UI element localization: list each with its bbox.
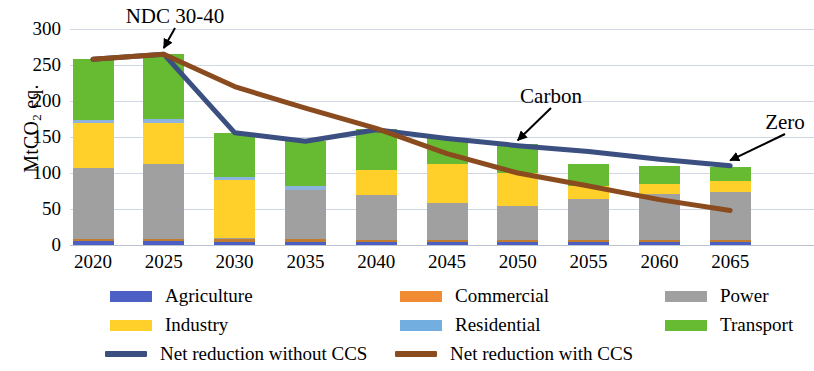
legend-item[interactable]: Residential (400, 314, 540, 336)
bar-segment-agriculture (143, 241, 184, 245)
bar-segment-transport (710, 167, 751, 181)
bar-segment-transport (568, 164, 609, 186)
legend-label: Power (720, 285, 769, 307)
bar-segment-power (285, 190, 326, 240)
x-axis-tick-label: 2025 (145, 251, 183, 273)
legend-label: Commercial (455, 285, 549, 307)
legend-label: Transport (720, 314, 793, 336)
legend-item[interactable]: Industry (110, 314, 228, 336)
stacked-bar[interactable] (285, 141, 326, 245)
bar-segment-industry (497, 173, 538, 206)
y-axis-tick-label: 300 (33, 18, 62, 40)
bar-segment-transport (214, 133, 255, 177)
y-axis-tick-label: 0 (52, 234, 62, 256)
annotation-label: NDC 30-40 (126, 4, 225, 29)
legend-row: IndustryResidentialTransport (0, 310, 814, 337)
bar-segment-transport (427, 138, 468, 164)
bar-segment-industry (568, 186, 609, 199)
legend-swatch (400, 291, 442, 302)
bar-segment-industry (143, 123, 184, 165)
x-axis-tick-label: 2030 (216, 251, 254, 273)
y-axis-tick-label: 150 (33, 126, 62, 148)
x-axis-tick-label: 2055 (570, 251, 608, 273)
chart-figure: MtCO2 eq. 050100150200250300 20202025203… (0, 0, 814, 371)
bar-segment-industry (427, 164, 468, 202)
bar-segment-industry (710, 181, 751, 193)
bar-segment-power (356, 195, 397, 240)
legend-label: Residential (455, 314, 540, 336)
legend-row: Net reduction without CCSNet reduction w… (0, 339, 814, 366)
bar-segment-agriculture (710, 242, 751, 245)
bar-segment-transport (143, 54, 184, 119)
bar-segment-agriculture (427, 242, 468, 245)
bar-segment-industry (356, 170, 397, 195)
bar-segment-industry (639, 184, 680, 194)
stacked-bar[interactable] (214, 133, 255, 245)
plot-area: 050100150200250300 (70, 0, 814, 248)
legend-item[interactable]: Agriculture (110, 285, 253, 307)
annotation-label: Carbon (520, 84, 582, 109)
legend-swatch (110, 291, 152, 302)
x-axis-tick-label: 2040 (357, 251, 395, 273)
bar-segment-industry (73, 123, 114, 168)
stacked-bar[interactable] (568, 164, 609, 245)
legend-swatch (105, 351, 147, 357)
x-axis-tick-label: 2035 (286, 251, 324, 273)
bar-segment-power (568, 199, 609, 240)
stacked-bar[interactable] (497, 144, 538, 245)
y-axis-tick-label: 50 (42, 198, 61, 220)
gridline (70, 245, 814, 246)
bar-segment-power (639, 194, 680, 240)
x-axis: 2020202520302035204020452050205520602065 (70, 249, 814, 275)
bar-segment-agriculture (214, 242, 255, 245)
legend-label: Net reduction with CCS (450, 343, 633, 365)
bar-segment-transport (73, 59, 114, 119)
bar-segment-transport (285, 141, 326, 186)
bar-segment-power (497, 206, 538, 240)
x-axis-tick-label: 2060 (640, 251, 678, 273)
bar-segment-agriculture (568, 242, 609, 245)
bar-segment-transport (497, 144, 538, 173)
bar-segment-agriculture (639, 242, 680, 245)
stacked-bar[interactable] (143, 54, 184, 245)
bar-segment-transport (639, 166, 680, 184)
bar-segment-industry (214, 180, 255, 238)
stacked-bar[interactable] (356, 129, 397, 245)
bar-segment-power (73, 168, 114, 239)
legend-label: Agriculture (165, 285, 253, 307)
stacked-bar[interactable] (73, 59, 114, 245)
legend-item[interactable]: Power (665, 285, 769, 307)
y-axis-tick-label: 200 (33, 90, 62, 112)
bar-segment-power (710, 192, 751, 240)
stacked-bar[interactable] (710, 167, 751, 245)
legend-swatch (665, 291, 707, 302)
annotation-label: Zero (765, 110, 805, 135)
legend-label: Net reduction without CCS (160, 343, 367, 365)
stacked-bar[interactable] (639, 166, 680, 245)
bar-segment-power (143, 164, 184, 238)
stacked-bar[interactable] (427, 138, 468, 245)
bar-segment-power (427, 203, 468, 240)
legend-swatch (110, 320, 152, 331)
legend-item[interactable]: Commercial (400, 285, 549, 307)
legend-row: AgricultureCommercialPower (0, 281, 814, 308)
x-axis-tick-label: 2020 (74, 251, 112, 273)
x-axis-tick-label: 2045 (428, 251, 466, 273)
y-axis-title-subscript: 2 (29, 114, 44, 121)
bar-segment-agriculture (497, 242, 538, 245)
bar-segment-agriculture (73, 241, 114, 245)
legend-swatch (395, 351, 437, 357)
legend-item[interactable]: Transport (665, 314, 793, 336)
legend-swatch (665, 320, 707, 331)
x-axis-tick-label: 2050 (499, 251, 537, 273)
gridline (70, 29, 814, 30)
y-axis-tick-label: 250 (33, 54, 62, 76)
x-axis-tick-label: 2065 (711, 251, 749, 273)
chart-legend: AgricultureCommercialPowerIndustryReside… (0, 281, 814, 371)
legend-label: Industry (165, 314, 228, 336)
bar-segment-agriculture (356, 242, 397, 245)
legend-item[interactable]: Net reduction with CCS (395, 343, 633, 365)
legend-item[interactable]: Net reduction without CCS (105, 343, 367, 365)
y-axis-tick-label: 100 (33, 162, 62, 184)
bar-segment-agriculture (285, 242, 326, 245)
